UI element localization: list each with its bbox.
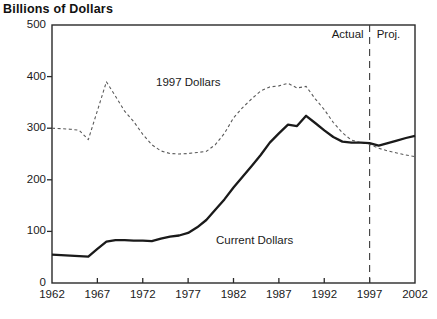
x-tick-label: 2002 <box>395 288 435 300</box>
x-tick-label: 1997 <box>350 288 390 300</box>
x-tick-label: 1977 <box>168 288 208 300</box>
y-tick-label: 200 <box>12 173 46 185</box>
x-tick-label: 1962 <box>32 288 72 300</box>
y-tick-label: 400 <box>12 70 46 82</box>
y-tick-label: 0 <box>12 276 46 288</box>
series-line-1997-dollars <box>52 82 415 157</box>
x-tick-label: 1987 <box>259 288 299 300</box>
chart-figure: Billions of Dollars 1997 Dollars Current… <box>0 0 437 319</box>
x-tick-label: 1967 <box>77 288 117 300</box>
series-label-1997-dollars: 1997 Dollars <box>156 76 221 88</box>
x-tick-label: 1972 <box>123 288 163 300</box>
x-tick-label: 1982 <box>214 288 254 300</box>
projection-period-label: Proj. <box>377 28 401 40</box>
actual-period-label: Actual <box>304 28 364 40</box>
series-label-current-dollars: Current Dollars <box>216 234 293 246</box>
y-tick-label: 100 <box>12 224 46 236</box>
x-tick-label: 1992 <box>304 288 344 300</box>
y-tick-label: 500 <box>12 18 46 30</box>
y-tick-label: 300 <box>12 121 46 133</box>
plot-area <box>0 0 437 319</box>
